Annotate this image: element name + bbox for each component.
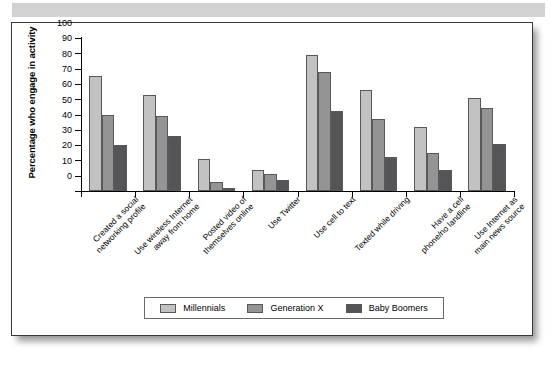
bar[interactable] [481, 108, 494, 191]
y-axis-tick-label: 50 [26, 95, 72, 105]
y-axis-tick-label: 0 [26, 171, 72, 181]
bar[interactable] [306, 55, 319, 191]
bar[interactable] [198, 159, 211, 191]
bar[interactable] [427, 153, 440, 191]
x-axis-category-labels: Created a social networking profileUse w… [81, 195, 521, 281]
bar[interactable] [102, 115, 115, 192]
legend-label: Generation X [270, 303, 323, 313]
x-axis-tick [243, 192, 244, 197]
legend-item[interactable]: Baby Boomers [346, 303, 428, 313]
chart-legend: MillennialsGeneration XBaby Boomers [144, 297, 444, 319]
bar-group [414, 38, 452, 191]
legend-label: Millennials [183, 303, 225, 313]
bar-group [252, 38, 290, 191]
bar-group [198, 38, 236, 191]
bar[interactable] [156, 116, 169, 191]
bar[interactable] [277, 180, 290, 191]
bar[interactable] [252, 170, 265, 191]
y-axis-tick-label: 40 [26, 110, 72, 120]
chart-plot-wrapper: Percentage who engage in activity 010203… [12, 23, 532, 335]
bar-group [143, 38, 181, 191]
bar-group [468, 38, 506, 191]
y-axis-tick-label: 100 [26, 18, 72, 28]
bar[interactable] [143, 95, 156, 191]
y-axis-tick-label: 70 [26, 64, 72, 74]
bars-plot-area [81, 38, 514, 191]
y-axis-tick-label: 60 [26, 79, 72, 89]
x-axis-tick [460, 192, 461, 197]
bar[interactable] [114, 145, 127, 191]
bar-group [89, 38, 127, 191]
legend-swatch-icon [247, 304, 263, 313]
y-axis-tick-label: 20 [26, 140, 72, 150]
y-axis-tick-label: 30 [26, 125, 72, 135]
bar[interactable] [385, 157, 398, 191]
bar[interactable] [439, 170, 452, 191]
x-axis-tick [135, 192, 136, 197]
bar[interactable] [168, 136, 181, 191]
x-axis-tick [189, 192, 190, 197]
bar[interactable] [318, 72, 331, 191]
legend-swatch-icon [346, 304, 362, 313]
legend-label: Baby Boomers [369, 303, 428, 313]
bar[interactable] [493, 144, 506, 191]
bar[interactable] [264, 174, 277, 191]
bar[interactable] [414, 127, 427, 191]
y-axis-tick-label: 80 [26, 49, 72, 59]
x-axis-tick [406, 192, 407, 197]
bar[interactable] [89, 76, 102, 191]
bar[interactable] [372, 119, 385, 191]
x-axis-tick [298, 192, 299, 197]
bar[interactable] [331, 111, 344, 191]
chart-figure-frame: Percentage who engage in activity 010203… [11, 22, 533, 336]
bar-group [306, 38, 344, 191]
bar[interactable] [360, 90, 373, 191]
legend-item[interactable]: Generation X [247, 303, 323, 313]
legend-swatch-icon [160, 304, 176, 313]
x-axis-tick [81, 192, 82, 197]
y-axis-tick-label: 10 [26, 156, 72, 166]
bar-group [360, 38, 398, 191]
bar[interactable] [223, 188, 236, 191]
bar[interactable] [210, 182, 223, 191]
page-top-band [12, 3, 545, 17]
bar[interactable] [468, 98, 481, 191]
x-axis-tick [514, 192, 515, 197]
y-axis-tick-label: 90 [26, 33, 72, 43]
x-axis-tick [352, 192, 353, 197]
legend-item[interactable]: Millennials [160, 303, 225, 313]
